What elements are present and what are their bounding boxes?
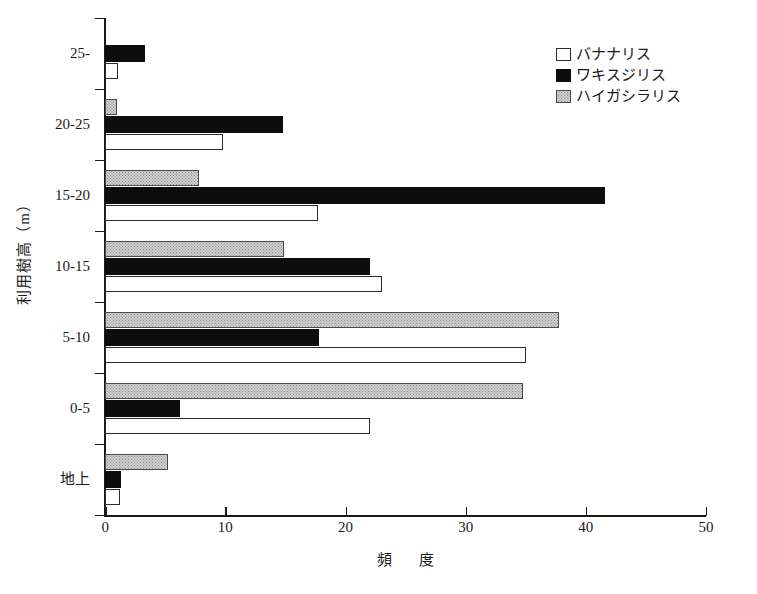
bar: [105, 383, 523, 400]
legend-item: ハイガシラリス: [556, 86, 746, 106]
legend: バナナリスワキスジリスハイガシラリス: [556, 44, 746, 107]
y-axis-tick: [95, 302, 104, 303]
legend-item: ワキスジリス: [556, 65, 746, 85]
bar: [105, 347, 526, 364]
legend-swatch-icon: [556, 69, 571, 82]
y-axis-tick: [95, 444, 104, 445]
y-axis-tick-label: 地上: [8, 471, 90, 488]
y-axis-tick: [95, 373, 104, 374]
bar: [105, 45, 145, 62]
legend-item-label: バナナリス: [576, 44, 651, 64]
bar: [105, 471, 121, 488]
legend-item-label: ハイガシラリス: [576, 86, 681, 106]
bar: [105, 276, 381, 293]
legend-item: バナナリス: [556, 44, 746, 64]
bar: [105, 489, 119, 506]
x-axis-tick: [346, 507, 347, 516]
bar: [105, 454, 167, 471]
y-axis-tick: [95, 89, 104, 90]
x-axis-tick-label: 40: [566, 519, 606, 536]
y-axis-tick: [95, 515, 104, 516]
x-axis-tick: [105, 507, 106, 516]
x-axis-title: 頻 度: [0, 548, 757, 569]
bar: [105, 400, 179, 417]
x-axis-tick: [225, 507, 226, 516]
legend-swatch-icon: [556, 48, 571, 61]
y-axis-tick: [95, 18, 104, 19]
x-axis-tick-label: 0: [85, 519, 125, 536]
x-axis-tick: [586, 507, 587, 516]
bar-chart: 25-20-2515-2010-155-100-5地上 01020304050 …: [0, 0, 757, 594]
legend-item-label: ワキスジリス: [576, 65, 666, 85]
x-axis-tick-label: 30: [446, 519, 486, 536]
x-axis-tick: [706, 507, 707, 516]
bar: [105, 329, 319, 346]
y-axis-tick: [95, 160, 104, 161]
bar: [105, 418, 369, 435]
bar: [105, 134, 223, 151]
y-axis-title: 利用樹高（m）: [12, 166, 33, 336]
y-axis-tick: [95, 231, 104, 232]
x-axis-tick-label: 50: [686, 519, 726, 536]
bar: [105, 63, 118, 80]
legend-swatch-icon: [556, 90, 571, 103]
bar: [105, 116, 283, 133]
bar: [105, 99, 117, 116]
bar: [105, 170, 199, 187]
y-axis-tick-label: 25-: [8, 45, 90, 62]
x-axis-tick-label: 10: [205, 519, 245, 536]
x-axis-tick-label: 20: [326, 519, 366, 536]
y-axis-tick-label: 0-5: [8, 400, 90, 417]
bar: [105, 312, 559, 329]
x-axis-line: [104, 515, 706, 517]
bar: [105, 258, 369, 275]
y-axis-tick-label: 20-25: [8, 116, 90, 133]
bar: [105, 187, 605, 204]
x-axis-tick: [466, 507, 467, 516]
bar: [105, 241, 284, 258]
bar: [105, 205, 318, 222]
